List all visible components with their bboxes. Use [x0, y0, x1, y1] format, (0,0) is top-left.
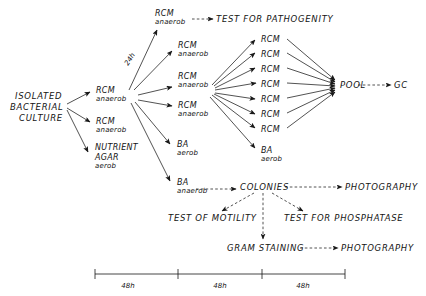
- edge-rcm-7-to-pool: [287, 92, 335, 128]
- s2-rcm-pathogenity-name: RCM: [155, 9, 174, 18]
- timeline-label-2: 48h: [296, 282, 309, 290]
- s2-rcm-hub-condition: anaerob: [178, 81, 209, 89]
- edge-hub-to-rcm-hub: [138, 87, 172, 95]
- edge-rcm-1-to-pool: [287, 39, 335, 80]
- edge-hub2-to-rcm-2: [214, 53, 255, 86]
- node-labels: ISOLATED BACTERIAL CULTURE RCM anaerob R…: [10, 9, 418, 253]
- s3-rcm-7: RCM: [261, 125, 280, 134]
- photography-top-label: PHOTOGRAPHY: [345, 182, 418, 192]
- s1-nutrient-agar-name2: AGAR: [94, 153, 119, 162]
- photography-bottom-label: PHOTOGRAPHY: [341, 243, 414, 253]
- s2-rcm-c-condition: anaerob: [178, 110, 209, 118]
- edge-rcm-3-to-pool: [287, 68, 335, 84]
- s2-rcm-pathogenity-condition: anaerob: [155, 18, 186, 26]
- edge-source-to-rcm-second: [67, 108, 90, 122]
- edge-hub2-to-rcm-7: [212, 95, 255, 128]
- s2-rcm-a-name: RCM: [178, 41, 197, 50]
- edge-hub-to-ba-anaerob: [131, 103, 170, 181]
- edge-rcm-2-to-pool: [287, 53, 335, 82]
- s2-ba-aerob-condition: aerob: [177, 149, 199, 157]
- edge-hub-to-ba-aerob: [135, 102, 170, 144]
- edge-hub2-to-rcm-1: [212, 40, 255, 85]
- colonies-label: COLONIES: [240, 182, 289, 192]
- s1-rcm-second-condition: anaerob: [96, 126, 127, 134]
- s2-rcm-c-name: RCM: [178, 101, 197, 110]
- s1-rcm-main-condition: anaerob: [96, 95, 127, 103]
- edges-stage3-to-pool: [287, 39, 335, 128]
- test-pathogenity-label: TEST FOR PATHOGENITY: [216, 14, 334, 24]
- s3-rcm-4: RCM: [261, 80, 280, 89]
- test-motility-label: TEST OF MOTILITY: [168, 213, 257, 223]
- source-line3: CULTURE: [19, 113, 63, 123]
- edge-colonies-to-test-phosphatase: [272, 193, 303, 211]
- gram-staining-label: GRAM STAINING: [227, 243, 304, 253]
- pool-label: POOL: [340, 80, 366, 90]
- s3-rcm-5: RCM: [261, 95, 280, 104]
- edge-rcm-5-to-pool: [287, 88, 335, 98]
- edge-hub2-to-rcm-5: [215, 93, 255, 99]
- flow-diagram-svg: ISOLATED BACTERIAL CULTURE RCM anaerob R…: [0, 0, 426, 296]
- edge-colonies-to-test-motility: [222, 193, 254, 211]
- edge-label-24h: 24h: [123, 52, 137, 68]
- s1-rcm-main-name: RCM: [96, 86, 115, 95]
- s3-rcm-3: RCM: [261, 65, 280, 74]
- s1-nutrient-agar-name: NUTRIENT: [95, 143, 139, 152]
- test-phosphatase-label: TEST FOR PHOSPHATASE: [284, 213, 403, 223]
- edge-hub2-to-rcm-3: [215, 68, 255, 88]
- s2-ba-aerob-name: BA: [177, 140, 189, 149]
- edges-stage1-to-stage2: [129, 30, 172, 181]
- flow-diagram-canvas: ISOLATED BACTERIAL CULTURE RCM anaerob R…: [0, 0, 426, 296]
- s3-rcm-2: RCM: [261, 50, 280, 59]
- source-line2: BACTERIAL: [10, 102, 63, 112]
- s2-ba-anaerob-name: BA: [177, 178, 189, 187]
- edge-hub2-to-rcm-4: [215, 83, 256, 90]
- edge-hub-to-rcm-a: [134, 51, 172, 90]
- s1-rcm-second-name: RCM: [96, 117, 115, 126]
- s2-rcm-a-condition: anaerob: [178, 50, 209, 58]
- edges-source-to-stage1: [67, 92, 90, 152]
- s3-rcm-6: RCM: [261, 110, 280, 119]
- s3-ba-condition: aerob: [261, 155, 283, 163]
- gc-label: GC: [394, 80, 408, 90]
- edge-source-to-rcm-main: [67, 92, 90, 104]
- timeline-axis: 48h 48h 48h: [95, 269, 345, 290]
- s2-ba-anaerob-condition: anaerob: [177, 187, 208, 195]
- source-line1: ISOLATED: [15, 91, 62, 101]
- edge-hub2-to-rcm-6: [214, 94, 255, 114]
- edge-rcm-4-to-pool: [287, 83, 335, 86]
- s3-rcm-1: RCM: [261, 35, 280, 44]
- s3-ba-name: BA: [261, 146, 273, 155]
- s1-nutrient-agar-condition: aerob: [95, 162, 117, 170]
- s2-rcm-hub-name: RCM: [178, 72, 197, 81]
- timeline-label-0: 48h: [121, 282, 134, 290]
- edge-source-to-nutrient-agar: [67, 110, 88, 152]
- timeline-label-1: 48h: [213, 282, 226, 290]
- edges-stage2-to-stage3: [210, 40, 256, 148]
- edge-hub-to-rcm-c: [138, 100, 172, 106]
